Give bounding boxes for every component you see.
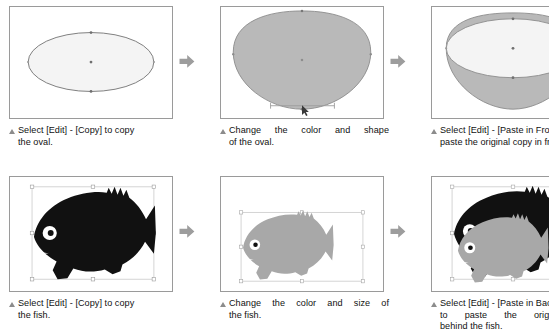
triangle-bullet-icon <box>220 302 226 307</box>
fish-step-1: Select [Edit] - [Copy] to copy the fish. <box>9 176 176 321</box>
step-arrow-2 <box>387 6 409 69</box>
oval-step-3: Select [Edit] - [Paste in Front] to past… <box>431 6 549 148</box>
triangle-bullet-icon <box>431 302 437 307</box>
oval-step-1-caption: Select [Edit] - [Copy] to copy the oval. <box>9 125 178 148</box>
oval-step-3-canvas <box>431 6 549 119</box>
fish-step-2: Change the color and size of the fish. <box>220 176 387 321</box>
fish-black-artwork <box>10 177 172 291</box>
illustration-sheet: Select [Edit] - [Copy] to copy the oval. <box>0 0 549 333</box>
caption-line: Select [Edit] - [Paste in Front] to <box>440 125 549 137</box>
oval-step-3-caption: Select [Edit] - [Paste in Front] to past… <box>431 125 549 148</box>
arrow-right-icon <box>390 224 406 239</box>
oval-step-1-canvas <box>9 6 173 119</box>
oval-reshaped-grey-artwork <box>221 7 383 118</box>
caption-line: Change the color and shape <box>229 125 389 137</box>
arrow-right-icon <box>179 224 195 239</box>
step-arrow-3 <box>176 176 198 239</box>
caption-line: Change the color and size of <box>229 298 389 310</box>
oval-bowl-artwork <box>432 7 549 118</box>
caption-line: the fish. <box>18 310 178 322</box>
caption-line: the oval. <box>18 137 178 149</box>
fish-step-3-canvas <box>431 176 549 292</box>
fish-step-1-canvas <box>9 176 173 292</box>
fish-step-3: Select [Edit] - [Paste in Back] to paste… <box>431 176 549 333</box>
step-arrow-1 <box>176 6 198 69</box>
caption-line: the fish. <box>229 310 389 322</box>
triangle-bullet-icon <box>431 129 437 134</box>
oval-step-2: Change the color and shape of the oval. <box>220 6 387 148</box>
fish-step-3-caption: Select [Edit] - [Paste in Back] to paste… <box>431 298 549 333</box>
caption-line: behind the fish. <box>440 321 549 333</box>
caption-line: paste the original copy in front. <box>440 137 549 149</box>
caption-line: Select [Edit] - [Copy] to copy <box>18 298 178 310</box>
triangle-bullet-icon <box>9 129 15 134</box>
fish-row: Select [Edit] - [Copy] to copy the fish. <box>0 176 549 333</box>
fish-grey-artwork <box>221 177 383 291</box>
fish-silhouette <box>243 210 334 279</box>
fish-layered-artwork <box>432 177 549 291</box>
oval-step-2-canvas <box>220 6 384 119</box>
triangle-bullet-icon <box>9 302 15 307</box>
fish-step-1-caption: Select [Edit] - [Copy] to copy the fish. <box>9 298 178 321</box>
oval-light-artwork <box>10 7 172 118</box>
arrow-right-icon <box>179 54 195 69</box>
oval-step-1: Select [Edit] - [Copy] to copy the oval. <box>9 6 176 148</box>
fish-step-2-caption: Change the color and size of the fish. <box>220 298 389 321</box>
step-arrow-4 <box>387 176 409 239</box>
oval-step-2-caption: Change the color and shape of the oval. <box>220 125 389 148</box>
caption-line: of the oval. <box>229 137 389 149</box>
oval-row: Select [Edit] - [Copy] to copy the oval. <box>0 6 549 166</box>
fish-silhouette <box>34 187 156 279</box>
caption-line: Select [Edit] - [Paste in Back] <box>440 298 549 310</box>
triangle-bullet-icon <box>220 129 226 134</box>
caption-line: to paste the original copy <box>440 310 549 322</box>
arrow-right-icon <box>390 54 406 69</box>
fish-step-2-canvas <box>220 176 384 292</box>
caption-line: Select [Edit] - [Copy] to copy <box>18 125 178 137</box>
